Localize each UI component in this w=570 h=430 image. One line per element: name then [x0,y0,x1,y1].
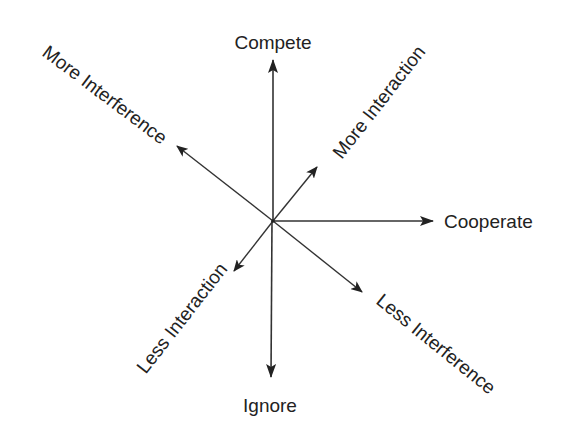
less-interaction-label: Less Interaction [132,259,231,378]
less-interference-label: Less Interference [372,290,499,399]
interaction-diagram: Compete Ignore Cooperate More Interferen… [0,0,570,430]
compete-label: Compete [234,32,311,53]
cooperate-label: Cooperate [444,211,533,232]
more-interaction-arrow [273,167,317,221]
diagram-svg: Compete Ignore Cooperate More Interferen… [0,0,570,430]
more-interference-arrow [177,146,273,221]
less-interference-arrow [273,221,362,292]
ignore-label: Ignore [243,395,297,416]
more-interference-label: More Interference [39,41,171,148]
origin-point [271,219,275,223]
ignore-arrow [271,221,272,377]
less-interaction-arrow [234,221,273,271]
more-interaction-label: More Interaction [328,41,429,162]
